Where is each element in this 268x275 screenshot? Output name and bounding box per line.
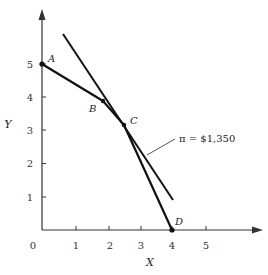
isoprofit-annotation: π = $1,350 bbox=[179, 133, 235, 144]
point-a-marker bbox=[39, 61, 44, 66]
point-d-marker bbox=[169, 227, 174, 232]
x-tick-1: 1 bbox=[73, 240, 79, 251]
x-tick-4: 4 bbox=[169, 240, 175, 251]
y-tick-3: 3 bbox=[27, 125, 33, 136]
x-axis-arrow-icon bbox=[252, 227, 263, 234]
y-tick-labels: 1 2 3 4 5 bbox=[27, 59, 33, 203]
annotation-leader bbox=[147, 139, 175, 155]
point-d-label: D bbox=[174, 216, 183, 227]
point-b-marker bbox=[101, 99, 105, 103]
chart: 1 2 3 4 5 0 1 2 3 4 5 X Y A B C D π = $1… bbox=[0, 0, 268, 275]
x-tick-5: 5 bbox=[203, 240, 209, 251]
y-tick-4: 4 bbox=[27, 92, 33, 103]
y-axis-arrow-icon bbox=[39, 9, 46, 20]
x-tick-2: 2 bbox=[107, 240, 113, 251]
y-axis-label: Y bbox=[4, 118, 13, 131]
y-tick-1: 1 bbox=[27, 192, 33, 203]
y-tick-5: 5 bbox=[27, 59, 33, 70]
point-c-marker bbox=[122, 123, 126, 127]
point-b-label: B bbox=[88, 103, 96, 114]
frontier-line bbox=[42, 64, 172, 230]
point-c-label: C bbox=[130, 115, 138, 126]
x-axis-label: X bbox=[145, 256, 155, 269]
x-tick-3: 3 bbox=[138, 240, 144, 251]
point-a-label: A bbox=[47, 53, 55, 64]
x-tick-labels: 0 1 2 3 4 5 bbox=[30, 240, 209, 251]
x-tick-0: 0 bbox=[30, 240, 36, 251]
y-tick-2: 2 bbox=[27, 158, 33, 169]
